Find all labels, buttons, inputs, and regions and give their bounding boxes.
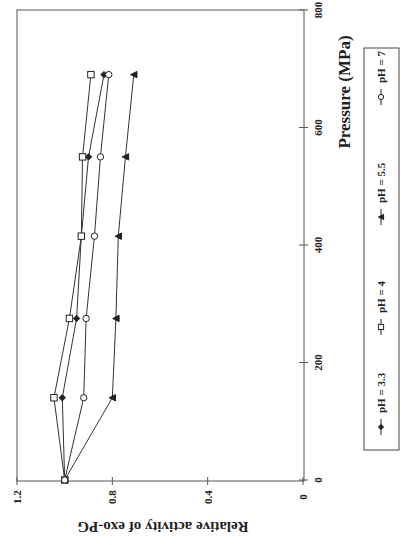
legend-item: pH = 5.5: [375, 162, 387, 225]
circle-marker: [61, 477, 67, 483]
diamond-marker: [378, 424, 383, 429]
plot-frame: [17, 10, 304, 481]
series-line: [65, 75, 109, 480]
y-axis-label: Relative activity of exo-PG: [77, 519, 249, 535]
diamond-marker: [85, 154, 91, 160]
series-markers: [51, 71, 137, 483]
circle-marker: [97, 154, 103, 160]
series-line: [62, 75, 104, 480]
x-axis-label: Pressure (MPa): [335, 35, 354, 148]
y-tick-label: 0.4: [202, 490, 214, 504]
legend-items: pH = 3.3pH = 4pH = 5.5pH = 7: [375, 51, 387, 435]
x-tick-label: 800: [312, 1, 324, 18]
square-marker: [88, 71, 94, 77]
series-lines: [54, 75, 134, 480]
legend-label: pH = 7: [375, 51, 387, 83]
square-marker: [66, 315, 72, 321]
series-line: [54, 75, 91, 480]
y-tick-label: 0: [297, 494, 309, 500]
circle-marker: [378, 94, 383, 99]
x-tick-label: 0: [312, 477, 324, 483]
legend-label: pH = 3.3: [375, 372, 387, 413]
x-tick-label: 400: [312, 236, 324, 253]
square-marker: [378, 324, 383, 329]
legend-item: pH = 4: [375, 281, 387, 335]
legend: pH = 3.3pH = 4pH = 5.5pH = 7: [364, 48, 399, 450]
y-tick-label: 0.8: [106, 490, 118, 504]
triangle-marker: [378, 214, 383, 219]
legend-label: pH = 5.5: [375, 162, 387, 203]
circle-marker: [106, 71, 112, 77]
x-tick-label: 600: [312, 119, 324, 136]
diamond-marker: [59, 395, 65, 401]
x-tick-label: 200: [312, 354, 324, 371]
circle-marker: [81, 395, 87, 401]
axis-ticks: [17, 10, 308, 485]
legend-label: pH = 4: [375, 281, 387, 313]
y-tick-label: 1.2: [11, 490, 23, 504]
rotated-line-chart: 00.40.81.20200400600800 Pressure (MPa) R…: [0, 0, 401, 545]
legend-item: pH = 3.3: [375, 372, 387, 435]
legend-item: pH = 7: [375, 51, 387, 105]
circle-marker: [91, 233, 97, 239]
diamond-marker: [73, 315, 79, 321]
square-marker: [51, 395, 57, 401]
circle-marker: [83, 315, 89, 321]
square-marker: [79, 154, 85, 160]
square-marker: [78, 233, 84, 239]
